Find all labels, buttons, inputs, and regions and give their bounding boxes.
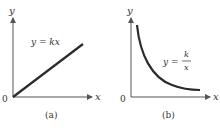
caption-a: (a) [45,110,57,120]
equation-b-denominator: x [184,63,189,72]
equation-a: y = kx [30,37,60,47]
linear-curve [13,44,83,97]
origin-label-b: 0 [120,94,126,104]
equation-b-lhs: y = [162,57,179,67]
y-axis-label-b: y [126,5,133,16]
x-axis-label-a: x [95,91,101,102]
panel-b: y x 0 y = k x (b) [120,5,219,120]
x-axis-label-b: x [213,91,219,102]
y-axis-label-a: y [8,5,15,16]
caption-b: (b) [162,110,175,120]
origin-label-a: 0 [2,94,8,104]
panel-a: y x 0 y = kx (a) [2,5,101,120]
equation-b-numerator: k [184,50,189,59]
figure-canvas: y x 0 y = kx (a) y x 0 y = k x (b) [0,0,220,128]
